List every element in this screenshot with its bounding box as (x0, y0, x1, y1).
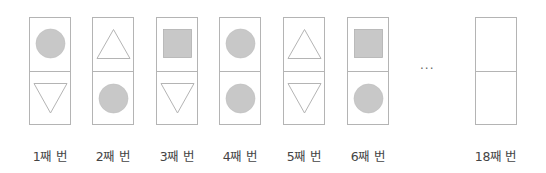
triangle-down-icon (157, 72, 197, 125)
card-4 (219, 17, 261, 125)
card-label: 4째 번 (205, 146, 275, 165)
card-18 (475, 17, 517, 125)
circle-icon (30, 18, 70, 71)
ellipsis: ··· (420, 62, 434, 76)
card-label: 18째 번 (461, 146, 531, 165)
square-icon (157, 18, 197, 71)
card-label: 6째 번 (333, 146, 403, 165)
card-label: 5째 번 (269, 146, 339, 165)
triangle-up-icon (93, 18, 133, 71)
triangle-down-icon (284, 72, 324, 125)
triangle-up-icon (284, 18, 324, 71)
card-label: 2째 번 (78, 146, 148, 165)
card-1 (29, 17, 71, 125)
circle-icon (220, 72, 260, 125)
blank-icon (476, 18, 516, 71)
card-label: 3째 번 (142, 146, 212, 165)
triangle-down-icon (30, 72, 70, 125)
card-label: 1째 번 (15, 146, 85, 165)
card-6 (347, 17, 389, 125)
circle-icon (348, 72, 388, 125)
card-2 (92, 17, 134, 125)
blank-icon (476, 72, 516, 125)
circle-icon (220, 18, 260, 71)
card-3 (156, 17, 198, 125)
circle-icon (93, 72, 133, 125)
square-icon (348, 18, 388, 71)
card-5 (283, 17, 325, 125)
